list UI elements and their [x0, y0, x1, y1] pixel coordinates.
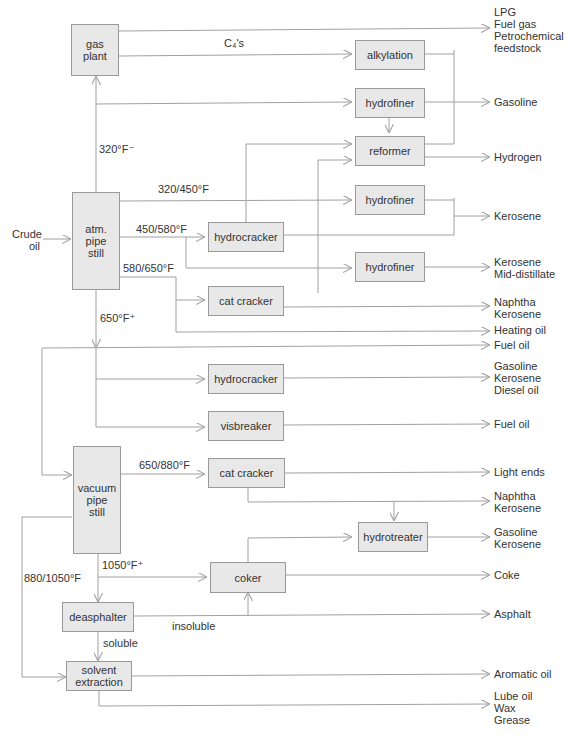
650-880F-label: 650/880°F: [139, 459, 190, 471]
580-650F-label: 580/650°F: [123, 262, 174, 274]
product-light-ends: Light ends: [494, 466, 545, 478]
product-asphalt: Asphalt: [494, 608, 531, 620]
reformer-unit: reformer: [355, 136, 425, 166]
1050F-plus-label: 1050°F⁺: [102, 559, 143, 571]
hydrotreater-unit: hydrotreater: [358, 522, 428, 552]
cat-cracker-unit-1: cat cracker: [208, 286, 284, 316]
product-fuel-oil-1: Fuel oil: [494, 339, 529, 351]
c4s-label: C₄'s: [224, 37, 244, 49]
soluble-label: soluble: [103, 637, 138, 649]
product-kerosene: Kerosene: [494, 210, 541, 222]
product-gasoline-kerosene-diesel: Gasoline Kerosene Diesel oil: [494, 360, 541, 396]
hydrofiner-kerosene-unit: hydrofiner: [355, 185, 425, 215]
450-580F-label: 450/580°F: [136, 223, 187, 235]
atm-pipe-still-unit: atm. pipe still: [72, 192, 120, 290]
product-fuel-oil-2: Fuel oil: [494, 418, 529, 430]
320F-minus-label: 320°F⁻: [99, 143, 134, 155]
product-lube-wax-grease: Lube oil Wax Grease: [494, 690, 533, 726]
cat-cracker-unit-2: cat cracker: [208, 458, 285, 488]
gas-plant-unit: gas plant: [71, 24, 119, 76]
hydrocracker-unit-2: hydrocracker: [208, 364, 284, 394]
visbreaker-unit: visbreaker: [208, 411, 284, 441]
refinery-flow-diagram: gas plant alkylation hydrofiner reformer…: [0, 0, 566, 734]
crude-oil-input-label: Crude oil: [12, 228, 40, 252]
hydrofiner-middistillate-unit: hydrofiner: [355, 252, 425, 282]
insoluble-label: insoluble: [172, 620, 215, 632]
alkylation-unit: alkylation: [355, 40, 425, 70]
product-lpg: LPG Fuel gas Petrochemical feedstock: [494, 6, 564, 54]
product-coke: Coke: [494, 569, 520, 581]
vacuum-pipe-still-unit: vacuum pipe still: [73, 446, 121, 554]
deasphalter-unit: deasphalter: [62, 602, 134, 632]
solvent-extraction-unit: solvent extraction: [66, 661, 132, 691]
hydrofiner-gasoline-unit: hydrofiner: [355, 88, 425, 118]
product-naphtha-kerosene-1: Naphtha Kerosene: [494, 296, 541, 320]
product-kerosene-middistillate: Kerosene Mid-distillate: [494, 256, 555, 280]
product-gasoline: Gasoline: [494, 96, 537, 108]
320-450F-label: 320/450°F: [158, 183, 209, 195]
product-naphtha-kerosene-2: Naphtha Kerosene: [494, 490, 541, 514]
hydrocracker-unit-1: hydrocracker: [208, 222, 284, 252]
880-1050F-label: 880/1050°F: [24, 572, 81, 584]
product-hydrogen: Hydrogen: [494, 151, 542, 163]
650F-plus-label: 650°F⁺: [100, 312, 135, 324]
coker-unit: coker: [210, 562, 286, 593]
product-heating-oil: Heating oil: [494, 324, 546, 336]
product-aromatic-oil: Aromatic oil: [494, 668, 551, 680]
product-gasoline-kerosene: Gasoline Kerosene: [494, 526, 541, 550]
